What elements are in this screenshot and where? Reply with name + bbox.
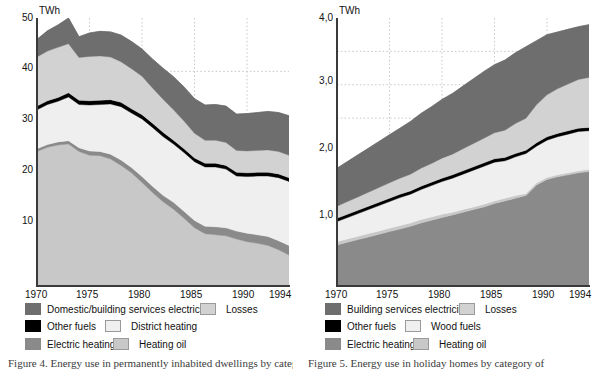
legend-label: Other fuels: [347, 321, 396, 332]
legend-swatch-icon: [325, 303, 341, 315]
figure-panel-holiday-homes: TWh 4,0 3,0 2,0 1,0 1970 1975 1980 1985 …: [300, 0, 599, 366]
x-tick: 1980: [128, 289, 150, 300]
y-axis-spine: [336, 18, 338, 286]
stacked-area-chart-dwellings: [37, 18, 289, 285]
x-tick: 1985: [180, 289, 202, 300]
y-axis-unit-label: TWh: [339, 6, 360, 16]
x-tick: 1990: [232, 289, 254, 300]
legend-label: Wood fuels: [431, 321, 481, 332]
legend-swatch-icon: [325, 338, 341, 350]
x-tick: 1990: [532, 289, 554, 300]
legend-swatch-icon: [113, 338, 129, 350]
legend-label: District heating: [131, 321, 197, 332]
legend-swatch-icon: [413, 338, 429, 350]
x-axis-spine: [36, 285, 290, 287]
legend-swatch-icon: [405, 320, 421, 332]
legend-label: Losses: [226, 304, 258, 315]
x-tick: 1970: [325, 289, 347, 300]
legend-label: Electric heating: [347, 339, 415, 350]
x-axis-left: 1970 1975 1980 1985 1990 1994: [0, 289, 299, 301]
y-tick: 4,0: [319, 13, 333, 23]
y-tick: 40: [22, 63, 33, 73]
y-tick: 20: [22, 165, 33, 175]
x-tick: 1970: [25, 289, 47, 300]
legend-swatch-icon: [25, 303, 41, 315]
legend-row: Other fuels Wood fuels: [300, 320, 599, 333]
x-tick: 1975: [76, 289, 98, 300]
figure-caption: Figure 4. Energy use in permanently inha…: [8, 357, 293, 369]
plot-area-dwellings: [37, 18, 289, 285]
figure-panel-dwellings: TWh 50 40 30 20 10 1970 1975 1980 1985 1…: [0, 0, 299, 366]
y-tick: 10: [22, 216, 33, 226]
legend-row: Building services electricity Losses: [300, 303, 599, 316]
y-tick: 2,0: [319, 143, 333, 153]
legend-swatch-icon: [105, 320, 121, 332]
legend-label: Building services electricity: [347, 304, 467, 315]
legend-label: Heating oil: [439, 339, 486, 350]
plot-area-holiday-homes: [337, 18, 589, 285]
legend-row: Electric heating Heating oil: [0, 338, 299, 351]
y-axis-unit-label: TWh: [39, 6, 60, 16]
legend-label: Domestic/building services electricity: [47, 304, 210, 315]
legend-label: Electric heating: [47, 339, 115, 350]
legend-swatch-icon: [25, 320, 41, 332]
legend-swatch-icon: [200, 303, 216, 315]
x-tick: 1994: [569, 289, 591, 300]
legend-row: Electric heating Heating oil: [300, 338, 599, 351]
legend-label: Heating oil: [139, 339, 186, 350]
x-tick: 1994: [269, 289, 291, 300]
y-tick: 50: [22, 13, 33, 23]
legend-row: Other fuels District heating: [0, 320, 299, 333]
legend-swatch-icon: [325, 320, 341, 332]
legend-label: Losses: [485, 304, 517, 315]
x-tick: 1985: [480, 289, 502, 300]
x-tick: 1975: [376, 289, 398, 300]
legend-swatch-icon: [25, 338, 41, 350]
legend-label: Other fuels: [47, 321, 96, 332]
x-axis-right: 1970 1975 1980 1985 1990 1994: [300, 289, 599, 301]
figure-caption: Figure 5. Energy use in holiday homes by…: [308, 357, 593, 369]
legend-row: Domestic/building services electricity L…: [0, 303, 299, 316]
x-tick: 1980: [428, 289, 450, 300]
legend-dwellings: Domestic/building services electricity L…: [0, 303, 299, 353]
x-axis-spine: [336, 285, 590, 287]
y-axis-spine: [36, 18, 38, 286]
legend-swatch-icon: [459, 303, 475, 315]
stacked-area-chart-holiday-homes: [337, 18, 589, 285]
legend-holiday-homes: Building services electricity Losses Oth…: [300, 303, 599, 353]
y-tick: 3,0: [319, 76, 333, 86]
y-tick: 30: [22, 114, 33, 124]
y-tick: 1,0: [319, 210, 333, 220]
